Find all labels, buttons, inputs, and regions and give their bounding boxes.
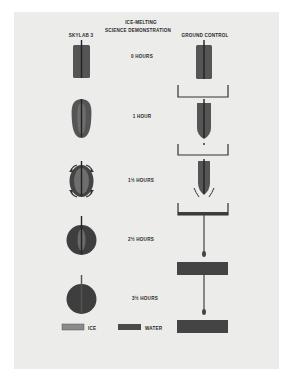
skylab-ice-3-5h [67,275,97,314]
ground-ice-0h [196,40,212,79]
skylab-ice-1h [72,99,92,138]
title-line-2: SCIENCE DEMONSTRATION [105,28,172,33]
skylab-ice-1-5h [69,161,94,197]
legend-water-swatch [118,324,141,330]
legend-water-label: WATER [145,326,163,331]
ground-ice-3-5h [202,275,206,315]
ice-melting-diagram: ICE-MELTING SCIENCE DEMONSTRATION SKYLAB… [0,0,293,379]
stage-label-1h: 1 HOUR [133,114,152,119]
skylab-ice-2-5h [67,216,97,255]
stage-label-0h: 0 HOURS [131,54,153,59]
ground-tray-3 [178,203,228,215]
stage-label-1-5h: 1½ HOURS [128,177,154,183]
ground-ice-1h [197,99,211,145]
stage-label-2-5h: 2½ HOURS [128,236,154,242]
legend-ice-swatch [62,324,84,330]
ground-tray-2 [178,144,228,155]
ground-ice-2-5h [202,215,206,257]
legend-ice-label: ICE [88,326,96,331]
ground-tray-1 [178,85,228,97]
title-line-1: ICE-MELTING [125,20,157,25]
ground-ice-1-5h [194,159,214,197]
column-header-skylab: SKYLAB 3 [69,33,94,38]
stage-label-3-5h: 3½ HOURS [132,295,158,301]
ground-tray-5 [177,320,228,333]
column-header-ground: GROUND CONTROL [181,33,228,38]
ground-tray-4 [177,262,228,275]
water-drop-icon [203,143,205,145]
legend: ICE WATER [62,324,163,331]
skylab-ice-0h [73,40,90,78]
